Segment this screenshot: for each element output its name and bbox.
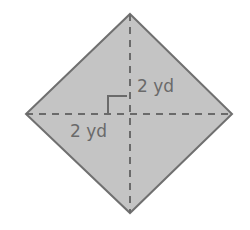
horizontal-measure-label: 2 yd — [70, 121, 107, 141]
vertical-measure-label: 2 yd — [137, 76, 174, 96]
figure: 2 yd 2 yd — [0, 0, 250, 230]
diamond-diagram: 2 yd 2 yd — [0, 0, 250, 230]
